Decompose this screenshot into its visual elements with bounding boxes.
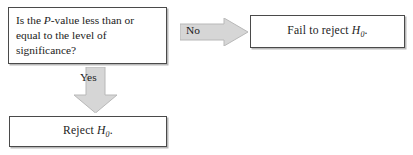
fail-reject-prefix: Fail to reject: [287, 24, 352, 37]
decision-line-1: Is the P-value less than or: [16, 13, 166, 28]
h-symbol: H: [97, 124, 106, 137]
hypothesis-test-flowchart: Is the P-value less than or equal to the…: [0, 0, 413, 155]
reject-suffix: .: [110, 124, 113, 137]
decision-line-3: significance?: [16, 43, 166, 58]
fail-to-reject-text: Fail to reject H0.: [287, 24, 367, 39]
reject-text: Reject H0.: [63, 124, 113, 139]
decision-box: Is the P-value less than or equal to the…: [8, 7, 167, 64]
reject-box: Reject H0.: [9, 116, 167, 147]
decision-line-2: equal to the level of: [16, 28, 166, 43]
fail-reject-suffix: .: [365, 24, 368, 37]
decision-text-a: Is the: [16, 14, 44, 26]
fail-to-reject-box: Fail to reject H0.: [250, 15, 405, 48]
branch-label-no: No: [186, 24, 200, 36]
reject-prefix: Reject: [63, 124, 97, 137]
p-symbol: P: [44, 14, 51, 26]
decision-text-b: -value less than or: [51, 14, 134, 26]
branch-label-yes: Yes: [80, 71, 97, 83]
